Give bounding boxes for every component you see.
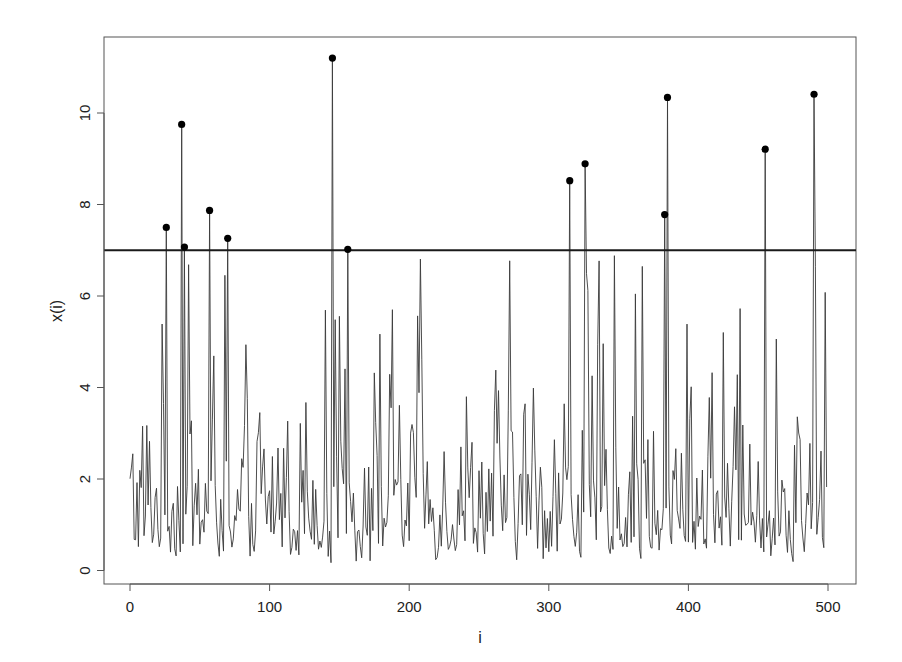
x-axis-label: i xyxy=(478,629,482,646)
exceedance-point xyxy=(181,243,188,250)
y-axis-label: x(i) xyxy=(48,300,65,322)
x-tick-label: 200 xyxy=(397,598,422,615)
series-line xyxy=(130,58,827,563)
x-tick-label: 400 xyxy=(676,598,701,615)
exceedance-point xyxy=(178,121,185,128)
chart: 0100200300400500 0246810 i x(i) xyxy=(0,0,902,662)
series-polyline xyxy=(130,58,827,563)
x-tick-label: 500 xyxy=(815,598,840,615)
exceedance-point xyxy=(664,94,671,101)
x-axis: 0100200300400500 xyxy=(126,584,841,615)
y-tick-label: 0 xyxy=(76,566,93,574)
exceedance-points xyxy=(163,55,818,253)
y-tick-label: 8 xyxy=(76,200,93,208)
y-tick-label: 10 xyxy=(76,105,93,122)
y-tick-label: 6 xyxy=(76,292,93,300)
exceedance-point xyxy=(344,246,351,253)
exceedance-point xyxy=(810,91,817,98)
x-tick-label: 100 xyxy=(257,598,282,615)
exceedance-point xyxy=(329,55,336,62)
exceedance-point xyxy=(206,207,213,214)
x-tick-label: 300 xyxy=(536,598,561,615)
exceedance-point xyxy=(566,177,573,184)
y-tick-label: 4 xyxy=(76,383,93,391)
y-axis: 0246810 xyxy=(76,105,104,575)
exceedance-point xyxy=(661,211,668,218)
exceedance-point xyxy=(224,235,231,242)
x-tick-label: 0 xyxy=(126,598,134,615)
y-tick-label: 2 xyxy=(76,475,93,483)
exceedance-point xyxy=(762,146,769,153)
exceedance-point xyxy=(581,160,588,167)
exceedance-point xyxy=(163,224,170,231)
